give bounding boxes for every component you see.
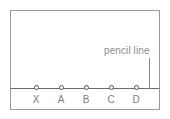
pencil-line-annotation-label: pencil line — [104, 45, 150, 57]
diagram-canvas: pencil line X A B C D — [0, 0, 170, 119]
point-label-d: D — [128, 93, 144, 106]
pencil-line-vertical-marker — [149, 58, 150, 89]
point-label-a: A — [53, 93, 69, 106]
point-label-c: C — [103, 93, 119, 106]
point-label-b: B — [78, 93, 94, 106]
point-marker-x — [34, 85, 39, 90]
point-marker-b — [84, 85, 89, 90]
point-marker-c — [109, 85, 114, 90]
point-label-x: X — [28, 93, 44, 106]
point-marker-d — [134, 85, 139, 90]
point-marker-a — [59, 85, 64, 90]
